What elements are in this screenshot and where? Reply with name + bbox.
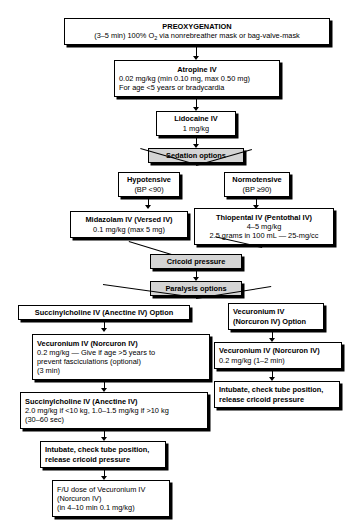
- fu-dose-line1: F/U dose of Vecuronium IV: [57, 485, 165, 494]
- flowchart-canvas: PREOXYGENATION (3–5 min) 100% O2 via non…: [0, 0, 360, 520]
- node-preoxygenation: PREOXYGENATION (3–5 min) 100% O2 via non…: [64, 18, 330, 45]
- vec-option-subheader: (Norcuron IV) Option: [233, 317, 319, 326]
- vec-option-header: Vecuronium IV: [233, 307, 319, 316]
- paralysis-options-header: Paralysis options: [155, 284, 237, 293]
- vec-dose-header: Vecuronium IV (Norcuron IV): [219, 346, 337, 355]
- midazolam-dose: 0.1 mg/kg (max 5 mg): [75, 225, 183, 234]
- fu-dose-line2: (Norcuron IV): [57, 494, 165, 503]
- node-intubate-left: Intubate, check tube position, release c…: [40, 441, 166, 468]
- node-hypotensive: Hypotensive (BP <90): [118, 172, 180, 197]
- succ-dose-amount: 2.0 mg/kg if <10 kg, 1.0–1.5 mg/kg if >1…: [25, 406, 203, 415]
- succ-option-header: Succinylcholine IV (Anectine IV) Option: [23, 308, 185, 317]
- node-succinylcholine-option: Succinylcholine IV (Anectine IV) Option: [18, 305, 190, 320]
- arrowhead-vec-pretreat: [101, 328, 107, 332]
- normotensive-header: Normotensive: [229, 175, 285, 184]
- intubate-right-line1: Intubate, check tube position,: [219, 385, 335, 394]
- arrowhead-midazolam: [145, 205, 151, 209]
- intubate-right-line2: release cricoid pressure: [219, 395, 335, 404]
- node-vecuronium-pretreatment: Vecuronium IV (Norcuron IV) 0.2 mg/kg — …: [32, 334, 210, 380]
- vec-pretreat-header: Vecuronium IV (Norcuron IV): [37, 339, 205, 348]
- atropine-dose: 0.02 mg/kg (min 0.10 mg, max 0.50 mg): [119, 74, 275, 83]
- node-vecuronium-dose: Vecuronium IV (Norcuron IV) 0.2 mg/kg (1…: [214, 342, 342, 369]
- cricoid-pressure-header: Cricoid pressure: [155, 257, 237, 266]
- vec-pretreat-dose: 0.2 mg/kg — Give if age >5 years to: [37, 348, 205, 357]
- fu-dose-line3: (in 4–10 min 0.1 mg/kg): [57, 503, 165, 512]
- thiopental-header: Thiopental IV (Pentothal IV): [199, 213, 329, 222]
- node-cricoid-pressure: Cricoid pressure: [150, 254, 242, 269]
- normotensive-bp: (BP ≥90): [229, 185, 285, 194]
- lidocaine-header: Lidocaine IV: [161, 114, 231, 123]
- node-midazolam: Midazolam IV (Versed IV) 0.1 mg/kg (max …: [70, 211, 188, 238]
- node-thiopental: Thiopental IV (Pentothal IV) 4–5 mg/kg 2…: [194, 208, 334, 245]
- lidocaine-dose: 1 mg/kg: [161, 124, 231, 133]
- node-intubate-right: Intubate, check tube position, release c…: [214, 381, 340, 408]
- preoxygenation-detail: (3–5 min) 100% O2 via nonrebreather mask…: [69, 31, 325, 41]
- node-lidocaine: Lidocaine IV 1 mg/kg: [156, 111, 236, 136]
- node-vecuronium-option: Vecuronium IV (Norcuron IV) Option: [228, 303, 324, 330]
- thiopental-dose: 4–5 mg/kg: [199, 222, 329, 231]
- thiopental-concentration: 2.5 grams in 100 mL — 25-mg/cc: [199, 231, 329, 240]
- vec-pretreat-onset: (3 min): [37, 366, 205, 375]
- node-fu-dose: F/U dose of Vecuronium IV (Norcuron IV) …: [52, 480, 170, 517]
- vec-pretreat-purpose: prevent fasciculations (optional): [37, 357, 205, 366]
- atropine-indication: For age <5 years or bradycardia: [119, 83, 275, 92]
- hypotensive-bp: (BP <90): [123, 185, 175, 194]
- node-atropine: Atropine IV 0.02 mg/kg (min 0.10 mg, max…: [114, 60, 280, 97]
- node-succinylcholine-dose: Succinylcholine IV (Anectine IV) 2.0 mg/…: [20, 392, 208, 429]
- intubate-left-line1: Intubate, check tube position,: [45, 445, 161, 454]
- vec-dose-amount: 0.2 mg/kg (1–2 min): [219, 356, 337, 365]
- node-normotensive: Normotensive (BP ≥90): [224, 172, 290, 197]
- succ-dose-header: Succinylcholine IV (Anectine IV): [25, 397, 203, 406]
- hypotensive-header: Hypotensive: [123, 175, 175, 184]
- succ-dose-onset: (30–60 sec): [25, 415, 203, 424]
- atropine-header: Atropine IV: [119, 65, 275, 74]
- preoxygenation-header: PREOXYGENATION: [69, 22, 325, 31]
- intubate-left-line2: release cricoid pressure: [45, 455, 161, 464]
- midazolam-header: Midazolam IV (Versed IV): [75, 215, 183, 224]
